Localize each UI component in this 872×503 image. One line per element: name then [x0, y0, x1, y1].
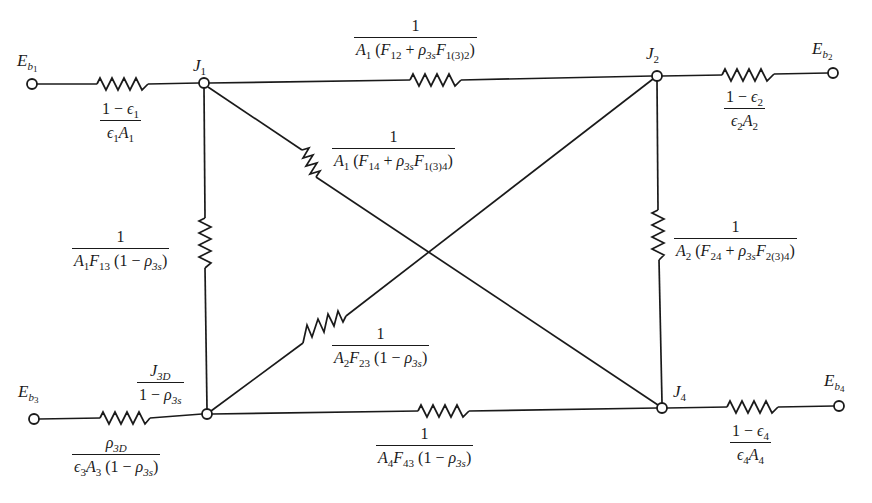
resistor-icon — [652, 210, 664, 260]
label-j3-radiosity: J3D 1 − ρ3s — [137, 362, 184, 405]
node-j4-icon — [657, 403, 667, 413]
node-j3-icon — [202, 409, 212, 419]
resistor-icon — [100, 412, 150, 424]
resistor-icon — [302, 148, 320, 177]
wire-j3-j4 — [212, 405, 657, 417]
terminal-eb2-icon — [828, 68, 838, 78]
wire-j2-eb2 — [662, 69, 828, 81]
label-eb2: Eb2 — [812, 40, 832, 57]
resistance-space-1-2: 1 A1 (F12 + ρ3sF1(3)2) — [354, 17, 477, 60]
radiation-network-diagram: Eb1 Eb2 Eb3 Eb4 J1 J2 J4 1 − ϵ1 ϵ1A1 1 −… — [0, 0, 872, 503]
label-eb4: Eb4 — [824, 372, 844, 389]
terminal-eb4-icon — [834, 401, 844, 411]
label-eb1: Eb1 — [17, 52, 37, 69]
resistance-surface-2: 1 − ϵ2 ϵ2A2 — [724, 88, 765, 131]
wire-eb3-j3 — [39, 412, 202, 424]
wire-j1-j3 — [199, 88, 211, 409]
wire-j2-j4 — [652, 81, 664, 403]
node-j1-icon — [199, 78, 209, 88]
resistor-icon — [410, 74, 461, 86]
terminal-eb1-icon — [27, 79, 37, 89]
resistor-icon — [199, 218, 211, 268]
label-j4: J4 — [673, 383, 686, 400]
node-j2-icon — [652, 71, 662, 81]
resistor-icon — [418, 405, 469, 417]
resistance-space-1-3: 1 A1F13 (1 − ρ3s) — [72, 228, 169, 271]
resistance-space-4-3: 1 A4F43 (1 − ρ3s) — [376, 425, 473, 468]
wire-j4-eb4 — [667, 401, 834, 413]
resistance-space-2-3: 1 A2F23 (1 − ρ3s) — [332, 325, 429, 368]
wire-eb1-j1 — [37, 78, 199, 90]
label-j2: J2 — [646, 45, 659, 62]
resistance-surface-4: 1 − ϵ4 ϵ4A4 — [730, 422, 771, 465]
resistor-icon — [97, 78, 148, 90]
resistance-space-1-4: 1 A1 (F14 + ρ3sF1(3)4) — [332, 128, 455, 171]
resistor-icon — [722, 69, 774, 81]
resistance-surface-3: ρ3D ϵ3A3 (1 − ρ3s) — [72, 434, 160, 477]
label-eb3: Eb3 — [18, 383, 38, 400]
resistance-surface-1: 1 − ϵ1 ϵ1A1 — [100, 100, 141, 143]
resistor-icon — [727, 401, 778, 413]
terminal-eb3-icon — [29, 414, 39, 424]
resistance-space-2-4: 1 A2 (F24 + ρ3sF2(3)4) — [674, 218, 797, 261]
label-j1: J1 — [193, 57, 206, 74]
wire-j1-j2 — [209, 74, 652, 86]
